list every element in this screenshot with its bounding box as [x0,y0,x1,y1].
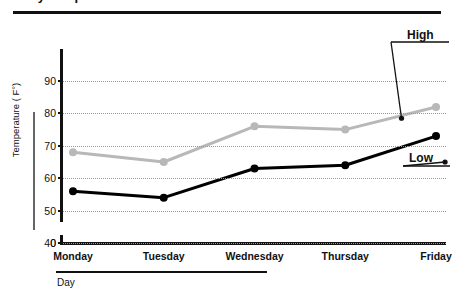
y-axis-tick-label: 80 [34,107,56,119]
x-axis-tick-label: Wednesday [225,250,283,262]
y-axis-tick-labels: 0405060708090 [30,50,56,243]
y-axis-tick [58,112,63,114]
y-axis-tick [58,210,63,212]
y-axis-tick [58,242,63,244]
gridline [63,81,446,82]
x-axis-tick-label: Monday [53,250,93,262]
data-point-high [432,103,440,111]
annotation-label-high: High [407,28,434,42]
data-point-high [341,126,349,134]
y-axis-title-wrap: Temperature ( F°) [10,60,26,180]
gridline [63,178,446,179]
plot-area [63,50,446,243]
data-point-low [432,132,440,140]
x-axis-tick-label: Tuesday [143,250,185,262]
gridline [63,243,446,244]
annotation-label-low: Low [409,151,433,165]
y-axis-tick-label: 60 [34,172,56,184]
y-axis-tick [58,177,63,179]
y-axis-tick [58,145,63,147]
x-axis-tick-label: Thursday [322,250,369,262]
data-point-low [69,187,77,195]
data-point-low [160,194,168,202]
x-axis-title: Day [57,277,75,288]
data-point-high [69,148,77,156]
gridline [63,211,446,212]
y-axis-tick-label: 70 [34,140,56,152]
x-axis-tick-labels: MondayTuesdayWednesdayThursdayFriday [63,250,446,266]
y-axis-tick [58,80,63,82]
y-axis-tick-label: 90 [34,75,56,87]
data-point-low [341,161,349,169]
x-axis-title-rule [56,271,267,273]
data-point-low [251,164,259,172]
chart-title: Daily Temperatures [14,0,134,3]
y-axis-tick-label: 50 [34,205,56,217]
gridline [63,146,446,147]
y-axis-tick-label: 40 [34,237,56,249]
data-point-high [251,122,259,130]
data-point-high [160,158,168,166]
chart-title-area: Daily Temperatures [0,0,454,10]
gridline [63,113,446,114]
x-axis-tick-label: Friday [420,250,452,262]
y-axis-title: Temperature ( F°) [10,60,21,180]
title-divider [13,11,441,14]
